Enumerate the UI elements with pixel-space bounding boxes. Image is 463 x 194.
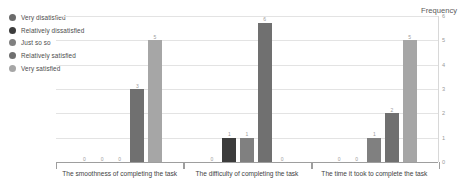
y-axis-title: Frequency (421, 6, 457, 15)
y-axis-line (438, 16, 439, 162)
bar-slot: 5 (148, 16, 162, 162)
bar[interactable] (148, 40, 162, 162)
bar-value-label: 0 (355, 156, 358, 162)
category-label: The smoothness of completing the task (56, 170, 183, 177)
y-axis-tick-label: 0 (442, 159, 445, 165)
category-bracket (183, 162, 312, 169)
bar-slot: 0 (77, 16, 91, 162)
bar[interactable] (385, 113, 399, 162)
bar-value-label: 2 (391, 107, 394, 113)
bar-slot: 3 (130, 16, 144, 162)
bar-slot: 0 (95, 16, 109, 162)
bar-group: 01160 (183, 16, 310, 162)
bar-value-label: 0 (101, 156, 104, 162)
bar[interactable] (403, 40, 417, 162)
legend-item-label: Very satisfied (21, 65, 60, 72)
bar-value-label: 6 (263, 16, 266, 22)
legend-item-label: Just so so (21, 39, 51, 46)
bar-slot: 1 (222, 16, 236, 162)
bar-value-label: 1 (246, 131, 249, 137)
bar-slot: 0 (275, 16, 289, 162)
category-bracket (311, 162, 440, 169)
y-axis-tick-label: 6 (442, 13, 445, 19)
bar[interactable] (367, 138, 381, 162)
bar-value-label: 0 (338, 156, 341, 162)
bar-slot: 1 (367, 16, 381, 162)
bar-group: 00125 (311, 16, 438, 162)
bar-slot: 5 (403, 16, 417, 162)
bar-slot: 0 (113, 16, 127, 162)
category-bracket (56, 162, 185, 169)
bar-value-label: 5 (153, 34, 156, 40)
bar[interactable] (130, 89, 144, 162)
bar-value-label: 0 (118, 156, 121, 162)
category-label: The time it took to complete the task (311, 170, 438, 177)
bar-slot: 6 (258, 16, 272, 162)
bar-group: 00035 (56, 16, 183, 162)
y-axis-tick-label: 5 (442, 37, 445, 43)
bar-slot: 0 (205, 16, 219, 162)
bar-slot: 0 (350, 16, 364, 162)
bar-value-label: 3 (136, 83, 139, 89)
y-axis-tick-label: 4 (442, 62, 445, 68)
legend-swatch-icon (9, 39, 16, 46)
plot-area: 000350116000125 (56, 16, 438, 162)
bar[interactable] (222, 138, 236, 162)
bar-value-label: 5 (408, 34, 411, 40)
frequency-bar-chart: Very disatisfiedRelatively dissatisfiedJ… (0, 0, 463, 194)
bar-slot: 0 (332, 16, 346, 162)
bar[interactable] (258, 23, 272, 163)
bar[interactable] (240, 138, 254, 162)
bar-value-label: 1 (228, 131, 231, 137)
bar-value-label: 0 (210, 156, 213, 162)
bar-value-label: 0 (83, 156, 86, 162)
bar-slot: 2 (385, 16, 399, 162)
category-label: The difficulty of completing the task (183, 170, 310, 177)
bar-value-label: 1 (373, 131, 376, 137)
bar-slot: 1 (240, 16, 254, 162)
bar-value-label: 0 (281, 156, 284, 162)
legend-swatch-icon (9, 27, 16, 34)
y-axis-tick-label: 1 (442, 135, 445, 141)
y-axis-tick-label: 2 (442, 110, 445, 116)
y-axis-tick-label: 3 (442, 86, 445, 92)
legend-swatch-icon (9, 65, 16, 72)
legend-swatch-icon (9, 14, 16, 21)
legend-swatch-icon (9, 52, 16, 59)
